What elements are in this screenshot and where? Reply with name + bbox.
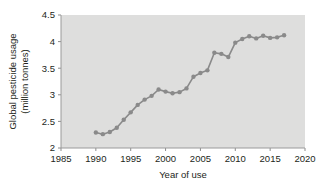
data-point [275,35,279,39]
data-point [219,52,223,56]
y-tick-label: 2.5 [42,116,55,127]
data-point [129,110,133,114]
y-tick-label: 2 [50,142,55,153]
x-tick-label: 1995 [120,153,141,164]
data-point [240,37,244,41]
data-point [101,132,105,136]
data-point [115,126,119,130]
y-tick-label: 3 [50,89,55,100]
x-tick-label: 1990 [85,153,106,164]
data-point [226,55,230,59]
data-point [108,130,112,134]
data-point [233,40,237,44]
pesticide-usage-line-chart: 22.533.544.5 198519901995200020052010201… [0,0,336,192]
data-point [156,87,160,91]
data-point [198,71,202,75]
x-tick-label: 2020 [294,153,315,164]
data-point [247,34,251,38]
data-point [177,90,181,94]
chart-canvas: 22.533.544.5 198519901995200020052010201… [0,0,336,192]
data-point [170,91,174,95]
data-point [191,75,195,79]
x-tick-label: 1985 [50,153,71,164]
data-point [149,94,153,98]
data-point [142,97,146,101]
y-tick-label: 4.5 [42,9,55,20]
data-point [135,103,139,107]
data-point [254,36,258,40]
y-tick-label: 3.5 [42,63,55,74]
data-point [205,68,209,72]
x-axis-title: Year of use [159,169,207,180]
x-tick-label: 2015 [260,153,281,164]
data-point [268,36,272,40]
data-point [282,33,286,37]
x-tick-label: 2000 [155,153,176,164]
data-point [261,34,265,38]
x-tick-label: 2005 [190,153,211,164]
y-axis-title-line-2: (million tonnes) [19,49,30,113]
data-point [212,51,216,55]
data-point [184,86,188,90]
data-point [94,130,98,134]
y-tick-label: 4 [50,36,55,47]
plot-area-background [61,15,305,148]
data-point [122,118,126,122]
y-axis-title-line-1: Global pesticide usage [7,33,18,129]
x-tick-label: 2010 [225,153,246,164]
data-point [163,89,167,93]
